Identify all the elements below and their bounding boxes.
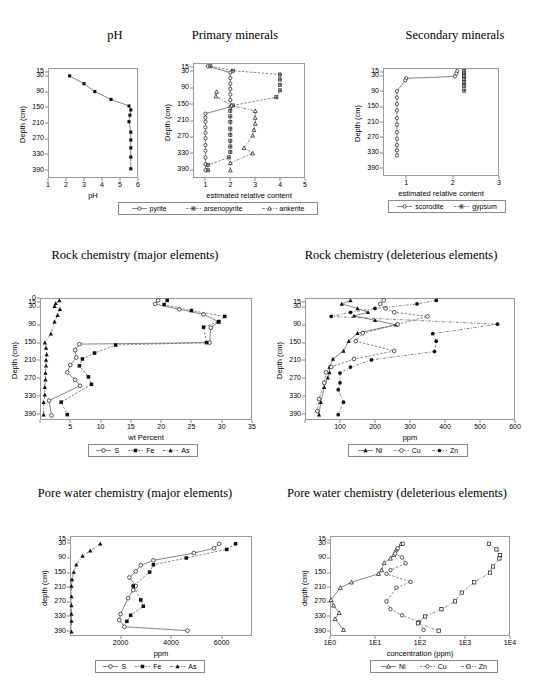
legend-item-pyrite[interactable]: pyrite (132, 204, 167, 213)
legend-item-ankerite[interactable]: ankerite (262, 204, 305, 213)
legend-secondary-minerals: scoroditegypsum (388, 200, 506, 213)
xtick-label: 400 (429, 423, 461, 430)
xtick-label: 1E0 (314, 639, 346, 646)
ytick-mark (302, 343, 306, 345)
xtick-label: 2 (437, 179, 469, 186)
ytick-label: 210 (283, 356, 301, 363)
ytick-mark (327, 602, 331, 604)
ytick-mark (37, 378, 41, 380)
xtick-mark (305, 420, 307, 424)
ytick-mark (302, 302, 306, 304)
yaxis-label-ph: Depth (cm) (18, 106, 27, 143)
legend-item-ni[interactable]: Ni (358, 446, 383, 455)
legend-item-cu[interactable]: Cu (420, 662, 447, 671)
ytick-label: 270 (283, 374, 301, 381)
ytick-mark (45, 123, 49, 125)
legend-item-cu[interactable]: Cu (394, 446, 421, 455)
ytick-label: 90 (171, 83, 189, 90)
xtick-mark (171, 636, 173, 640)
legend-item-scorodite[interactable]: scorodite (397, 202, 443, 211)
plot-canvas-primary-minerals (193, 63, 305, 178)
ytick-label: 30 (361, 71, 379, 78)
ytick-label: 330 (18, 392, 36, 399)
ytick-mark (37, 307, 41, 309)
legend-item-gypsum[interactable]: gypsum (454, 202, 497, 211)
ytick-mark (67, 587, 71, 589)
xtick-mark (420, 636, 422, 640)
ytick-label: 330 (48, 612, 66, 619)
legend-porewater-major: SFeAs (95, 660, 205, 673)
xtick-label: 6 (122, 181, 154, 188)
plot-canvas-rock-deleterious (305, 298, 515, 420)
legend-marker-gypsum (454, 202, 470, 211)
series-s (47, 299, 220, 418)
xaxis-label-primary-minerals: estimated relative content (193, 191, 305, 200)
ytick-label: 390 (48, 627, 66, 634)
ytick-label: 150 (26, 103, 44, 110)
legend-label: Ni (376, 447, 383, 454)
legend-item-as[interactable]: As (170, 662, 196, 671)
ytick-label: 390 (283, 410, 301, 417)
legend-item-s[interactable]: S (96, 446, 119, 455)
ytick-mark (190, 137, 194, 139)
ytick-mark (327, 631, 331, 633)
legend-label: Fe (146, 447, 154, 454)
legend-marker-fe (135, 662, 151, 671)
legend-item-ni[interactable]: Ni (381, 662, 406, 671)
legend-porewater-deleterious: NiCuZn (370, 660, 498, 673)
legend-marker-ni (381, 662, 397, 671)
xtick-label: 30 (206, 423, 238, 430)
xtick-mark (205, 178, 207, 182)
panel-title-secondary-minerals: Secondary minerals (370, 28, 540, 43)
ytick-mark (67, 616, 71, 618)
legend-item-zn[interactable]: Zn (432, 446, 458, 455)
ytick-label: 330 (361, 148, 379, 155)
xaxis-label-rock-major: wt Percent (40, 433, 252, 442)
legend-marker-s (103, 662, 119, 671)
ytick-mark (67, 558, 71, 560)
ytick-mark (327, 543, 331, 545)
legend-item-s[interactable]: S (103, 662, 126, 671)
series-as (69, 542, 102, 634)
legend-item-as[interactable]: As (163, 446, 189, 455)
legend-marker-zn (461, 662, 477, 671)
panel-title-rock-major: Rock chemistry (major elements) (10, 248, 260, 263)
series-as (42, 298, 63, 416)
xtick-label: 6000 (206, 639, 238, 646)
xaxis-label-rock-deleterious: ppm (305, 433, 515, 442)
legend-item-arsenopyrite[interactable]: arsenopyrite (186, 204, 243, 213)
legend-label: Zn (479, 663, 487, 670)
plot-canvas-rock-major (40, 298, 252, 420)
xtick-label: 35 (236, 423, 268, 430)
legend-marker-s (96, 446, 112, 455)
ytick-mark (302, 307, 306, 309)
series-ph (68, 74, 132, 170)
xtick-mark (406, 176, 408, 180)
xtick-mark (255, 178, 257, 182)
xtick-mark (305, 178, 307, 182)
panel-title-porewater-major: Pore water chemistry (major elements) (10, 486, 260, 501)
ytick-mark (67, 631, 71, 633)
ytick-label: 150 (308, 568, 326, 575)
ytick-label: 210 (171, 116, 189, 123)
ytick-mark (37, 298, 41, 300)
xtick-label: 1E1 (359, 639, 391, 646)
xtick-mark (515, 420, 517, 424)
legend-item-fe[interactable]: Fe (128, 446, 154, 455)
ytick-mark (67, 540, 71, 542)
xtick-mark (375, 420, 377, 424)
ytick-mark (37, 343, 41, 345)
legend-label: Zn (450, 447, 458, 454)
ytick-mark (37, 302, 41, 304)
panel-title-rock-deleterious: Rock chemistry (deleterious elements) (270, 248, 532, 263)
xtick-mark (40, 420, 42, 424)
legend-primary-minerals: pyritearsenopyriteankerite (118, 202, 318, 215)
xtick-mark (480, 420, 482, 424)
ytick-label: 30 (26, 71, 44, 78)
legend-item-zn[interactable]: Zn (461, 662, 487, 671)
ytick-mark (45, 170, 49, 172)
xtick-mark (445, 420, 447, 424)
legend-label: Cu (412, 447, 421, 454)
xtick-mark (131, 420, 133, 424)
legend-item-fe[interactable]: Fe (135, 662, 161, 671)
